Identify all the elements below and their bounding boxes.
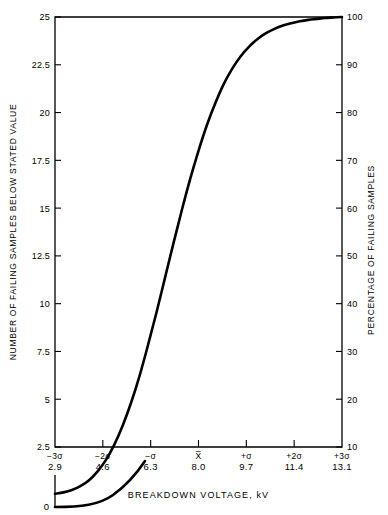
zero-tick-label: 0 [44,501,49,512]
y-axis-left-tick-label: 25 [40,12,50,22]
y-axis-left-tick-label: 15 [40,204,50,214]
y-axis-right-tick-label: 20 [347,395,357,405]
x-axis-tick-value-label: 8.0 [191,461,205,472]
x-axis-tick-sigma-label: −σ [145,451,156,461]
x-axis-tick-sigma-label: −3σ [47,451,63,461]
y-axis-right-tick-label: 100 [347,12,363,22]
y-axis-right-tick-label: 50 [347,251,357,261]
plot-frame [55,17,342,447]
x-axis-tick-value-label: 13.1 [332,461,352,472]
x-axis-tick-sigma-label: +2σ [286,451,302,461]
breakdown-voltage-chart: 2522.52017.51512.5107.552.51009080706050… [0,0,388,515]
y-axis-left-tick-label: 7.5 [37,347,50,357]
y-axis-right-tick-label: 70 [347,156,357,166]
x-axis-tick-sigma-label: +3σ [334,451,350,461]
y-axis-left-title: NUMBER OF FAILING SAMPLES BELOW STATED V… [8,104,18,361]
y-axis-right-title: PERCENTAGE OF FAILING SAMPLES [366,165,376,335]
x-axis-tick-value-label: 2.9 [48,461,62,472]
x-axis-tick-sigma-label: +σ [241,451,252,461]
y-axis-left-tick-label: 10 [40,299,50,309]
x-axis-tick-value-label: 9.7 [239,461,253,472]
y-axis-right-tick-label: 80 [347,108,357,118]
y-axis-left-tick-label: 17.5 [32,156,50,166]
y-axis-left-tick-label: 12.5 [32,251,50,261]
data-curve [55,17,342,494]
y-axis-right-tick-label: 90 [347,60,357,70]
y-axis-right-tick-label: 30 [347,347,357,357]
x-axis-tick-sigma-label: X̅ [195,451,201,461]
x-axis-tick-value-label: 11.4 [285,461,304,472]
y-axis-right-tick-label: 60 [347,204,357,214]
y-axis-left-tick-label: 20 [40,108,50,118]
x-axis-tick-value-label: 6.3 [144,461,158,472]
y-axis-left-tick-label: 5 [45,395,50,405]
chart-canvas: 2522.52017.51512.5107.552.51009080706050… [0,0,388,515]
y-axis-left-tick-label: 22.5 [32,60,50,70]
y-axis-right-tick-label: 40 [347,299,357,309]
x-axis-title: BREAKDOWN VOLTAGE, kV [128,490,269,500]
